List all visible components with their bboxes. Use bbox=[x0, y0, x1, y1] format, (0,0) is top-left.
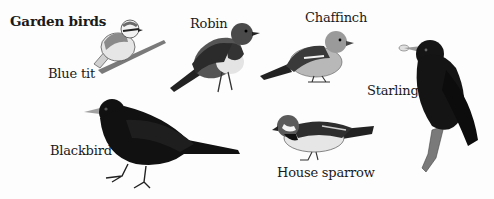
blackbird-legs bbox=[106, 164, 150, 188]
label-blue-tit: Blue tit bbox=[48, 66, 95, 81]
chaffinch-beak bbox=[346, 41, 354, 46]
starling-branch bbox=[422, 126, 444, 172]
robin-illustration bbox=[166, 18, 266, 96]
chaffinch-eye bbox=[339, 39, 342, 42]
house-sparrow-illustration bbox=[272, 112, 376, 162]
chaffinch-head bbox=[325, 31, 347, 53]
blackbird-eye bbox=[104, 107, 107, 110]
house-sparrow-head bbox=[277, 115, 299, 137]
house-sparrow-legs bbox=[300, 152, 318, 160]
chaffinch-illustration bbox=[258, 28, 358, 84]
blackbird-beak bbox=[84, 108, 100, 114]
robin-head bbox=[231, 23, 253, 45]
starling-illustration bbox=[398, 40, 486, 172]
garden-birds-diagram: Garden birds Blue tit Robin Chaffinch bbox=[0, 0, 494, 199]
blackbird-illustration bbox=[84, 98, 244, 190]
label-starling: Starling bbox=[367, 83, 419, 98]
starling-eye bbox=[425, 49, 428, 52]
blue-tit-beak bbox=[138, 29, 143, 32]
label-chaffinch: Chaffinch bbox=[305, 10, 367, 25]
robin-eye bbox=[245, 30, 248, 33]
blue-tit-illustration bbox=[88, 12, 168, 77]
house-sparrow-beak bbox=[272, 126, 278, 131]
label-house-sparrow: House sparrow bbox=[277, 165, 375, 180]
